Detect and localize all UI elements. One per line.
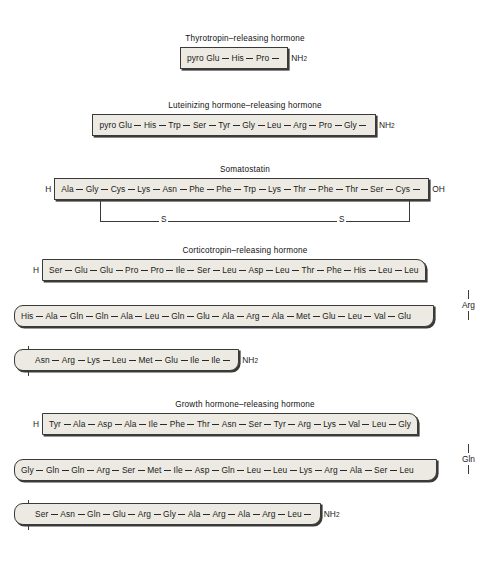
residue: Asn: [222, 419, 237, 429]
bond-dash: [159, 125, 166, 126]
residue: Lys: [299, 465, 312, 475]
residue: Gly: [163, 509, 176, 519]
residue: Ala: [222, 311, 234, 321]
bond-dash: [309, 189, 316, 190]
residue-list-ghrh-1: TyrAlaAspAlaIlePheThrAsnSerTyrArgLysValL…: [49, 419, 411, 429]
bond-dash: [266, 270, 273, 271]
bond-dash: [36, 316, 43, 317]
residue: Phe: [216, 184, 231, 194]
residue: Gly: [21, 465, 34, 475]
bond-dash: [386, 189, 393, 190]
bond-dash: [202, 360, 209, 361]
residue: Arg: [246, 311, 259, 321]
c-terminus-ghrh: NH2: [321, 503, 343, 525]
residue: Pro: [150, 265, 163, 275]
hormone-title-somatostatin: Somatostatin: [0, 165, 490, 174]
bond-dash: [78, 360, 85, 361]
residue: Ile: [174, 465, 183, 475]
bond-dash: [253, 514, 260, 515]
residue: Asp: [249, 265, 264, 275]
residue: Leu: [247, 465, 261, 475]
residue: Arg: [293, 120, 306, 130]
residue: Lys: [268, 184, 281, 194]
bond-dash: [139, 424, 146, 425]
bond-dash: [111, 316, 118, 317]
bond-dash: [213, 270, 220, 271]
bond-dash: [160, 424, 167, 425]
bond-dash: [390, 470, 397, 471]
residue: Ile: [176, 265, 185, 275]
hormone-section-lhrh: Luteinizing hormone–releasing hormone py…: [0, 101, 490, 136]
residue: Glu: [322, 311, 335, 321]
residue: Val: [348, 419, 360, 429]
disulfide-bridge: S S: [0, 200, 490, 226]
hormone-section-ghrh: Growth hormone–releasing hormone H TyrAl…: [0, 400, 490, 525]
bond-dash: [228, 514, 235, 515]
bond-dash: [262, 316, 269, 317]
bond-dash: [264, 424, 271, 425]
residue: Pro: [125, 265, 138, 275]
bond-dash: [128, 189, 135, 190]
residue: Ser: [35, 509, 48, 519]
sequence-box-ghrh-2: GlyGlnGlnArgSerMetIleAspGlnLeuLeuLysArgA…: [14, 459, 437, 481]
bond-dash: [389, 424, 396, 425]
chain-row-lhrh-1: pyro GluHisTrpSerTyrGlyLeuArgProGly NH2: [0, 114, 490, 136]
residue: Ser: [249, 419, 262, 429]
residue: Arg: [138, 509, 151, 519]
bond-dash: [336, 189, 343, 190]
bond-dash: [212, 470, 219, 471]
peptide-hormone-diagram: Thyrotropin–releasing hormone pyro GluHi…: [0, 0, 490, 571]
bond-dash: [76, 189, 83, 190]
residue: Gly: [242, 120, 255, 130]
residue: Arg: [324, 465, 337, 475]
bond-dash: [135, 316, 142, 317]
residue: Ser: [197, 265, 210, 275]
bond-dash: [335, 125, 342, 126]
bond-dash: [338, 316, 345, 317]
residue: Leu: [275, 265, 289, 275]
sequence-box-ghrh-1: TyrAlaAspAlaIlePheThrAsnSerTyrArgLysValL…: [42, 413, 418, 435]
bond-dash: [116, 270, 123, 271]
bond-dash: [314, 424, 321, 425]
bond-dash: [203, 514, 210, 515]
bond-dash: [212, 316, 219, 317]
bond-dash: [365, 470, 372, 471]
residue-list-trh-1: pyro GluHisPro: [187, 53, 281, 63]
bond-dash: [155, 360, 162, 361]
residue: Ala: [124, 419, 136, 429]
bond-dash: [317, 270, 324, 271]
residue: Leu: [348, 311, 362, 321]
bond-dash: [166, 270, 173, 271]
bond-dash: [315, 470, 322, 471]
residue: Arg: [212, 509, 225, 519]
bond-dash: [292, 270, 299, 271]
residue: Tyr: [49, 419, 61, 429]
residue-list-ghrh-2: GlyGlnGlnArgSerMetIleAspGlnLeuLeuLysArgA…: [21, 465, 414, 475]
bond-dash: [237, 316, 244, 317]
residue: His: [21, 311, 33, 321]
c-terminus-trh: NH2: [288, 47, 310, 69]
residue: Thr: [197, 419, 210, 429]
bond-dash: [164, 470, 171, 471]
hormone-title-ghrh: Growth hormone–releasing hormone: [0, 400, 490, 409]
residue: Arg: [62, 355, 75, 365]
residue: Arg: [262, 509, 275, 519]
bond-dash: [234, 189, 241, 190]
bond-dash: [258, 125, 265, 126]
chain-row-crh-1: H SerGluGluProProIleSerLeuAspLeuThrPheHi…: [0, 259, 490, 281]
chain-row-crh-3: AsnArgLysLeuMetGluIleIle NH2: [0, 349, 490, 371]
c-terminus-crh: NH2: [239, 349, 261, 371]
chain-row-somatostatin-1: H AlaGlyCysLysAsnPhePheTrpLysThrPheThrSe…: [0, 178, 490, 200]
bond-dash: [129, 360, 136, 361]
bond-dash: [153, 189, 160, 190]
hormone-section-crh: Corticotropin–releasing hormone H SerGlu…: [0, 246, 490, 371]
bond-dash: [239, 424, 246, 425]
residue: Cys: [111, 184, 126, 194]
residue: Ile: [190, 355, 199, 365]
residue: Glu: [398, 311, 411, 321]
residue: Phe: [170, 419, 185, 429]
bond-dash: [388, 316, 395, 317]
bond-dash: [313, 316, 320, 317]
bond-dash: [209, 125, 216, 126]
residue: Gly: [344, 120, 357, 130]
